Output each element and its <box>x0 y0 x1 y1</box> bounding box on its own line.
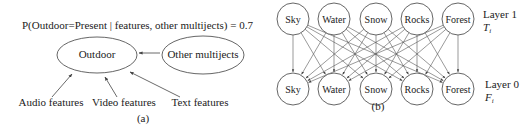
layer-1-label: Layer 1 <box>483 8 517 20</box>
layer-1-symbol: Ti <box>483 21 491 35</box>
text-features-label: Text features <box>172 96 229 108</box>
figure-canvas: P(Outdoor=Present | features, other mult… <box>0 0 532 134</box>
edge-arrow <box>349 27 444 81</box>
outdoor-node-label: Outdoor <box>79 48 116 60</box>
audio-features-label: Audio features <box>18 96 83 108</box>
edge-arrow <box>302 33 326 75</box>
top-node-forest-label: Forest <box>446 14 471 25</box>
layer-0-label: Layer 0 <box>485 78 519 90</box>
edge-arrow <box>426 33 450 75</box>
arrow-text-to-outdoor <box>130 72 180 97</box>
top-node-rocks-label: Rocks <box>405 14 430 25</box>
panel-a: P(Outdoor=Present | features, other mult… <box>18 19 253 125</box>
caption-b: (b) <box>372 100 385 113</box>
arrow-video-to-outdoor <box>105 77 117 97</box>
panel-b: Sky Water Snow Rocks Forest Sky Water Sn… <box>277 3 519 113</box>
bottom-node-forest-label: Forest <box>446 84 471 95</box>
top-node-water-label: Water <box>322 14 346 25</box>
caption-a: (a) <box>137 112 150 125</box>
figure: P(Outdoor=Present | features, other mult… <box>0 0 532 134</box>
bottom-node-sky-label: Sky <box>285 84 301 95</box>
other-multijects-label: Other multijects <box>167 48 238 60</box>
edge-arrow <box>425 33 449 75</box>
probability-title: P(Outdoor=Present | features, other mult… <box>22 19 253 32</box>
bottom-node-rocks-label: Rocks <box>405 84 430 95</box>
bottom-node-water-label: Water <box>322 84 346 95</box>
layer-0-symbol: Fi <box>484 91 494 105</box>
edge-arrow <box>301 33 325 75</box>
arrow-audio-to-outdoor <box>52 74 72 97</box>
edge-arrow <box>308 27 403 81</box>
top-node-sky-label: Sky <box>285 14 301 25</box>
video-features-label: Video features <box>92 96 156 108</box>
edge-arrow <box>342 33 367 75</box>
top-node-snow-label: Snow <box>365 14 389 25</box>
bottom-node-snow-label: Snow <box>365 84 389 95</box>
